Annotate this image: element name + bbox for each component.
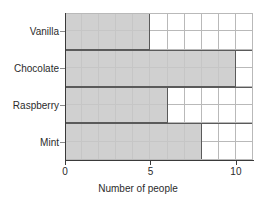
- bar-chart: 0510 VanillaChocolateRaspberryMint Numbe…: [0, 0, 276, 206]
- bar-raspberry: [65, 87, 168, 124]
- band-separator: [65, 50, 253, 51]
- category-label-raspberry: Raspberry: [13, 99, 65, 110]
- x-tick-mark: [236, 160, 237, 165]
- band-separator: [65, 123, 253, 124]
- y-tick-mark: [60, 142, 65, 143]
- x-axis-line: [65, 160, 254, 161]
- bar-mint: [65, 123, 202, 160]
- x-tick-mark: [65, 160, 66, 165]
- category-label-chocolate: Chocolate: [14, 63, 65, 74]
- x-tick-mark: [150, 160, 151, 165]
- y-tick-mark: [60, 31, 65, 32]
- x-tick-label: 5: [148, 166, 154, 177]
- x-tick-label: 10: [230, 166, 241, 177]
- bar-chocolate: [65, 50, 236, 87]
- x-axis-title: Number of people: [0, 183, 276, 194]
- bar-vanilla: [65, 13, 150, 50]
- y-axis-line: [65, 13, 66, 161]
- band-separator: [65, 87, 253, 88]
- y-tick-mark: [60, 105, 65, 106]
- plot-area: [65, 13, 253, 160]
- y-tick-mark: [60, 68, 65, 69]
- x-tick-label: 0: [62, 166, 68, 177]
